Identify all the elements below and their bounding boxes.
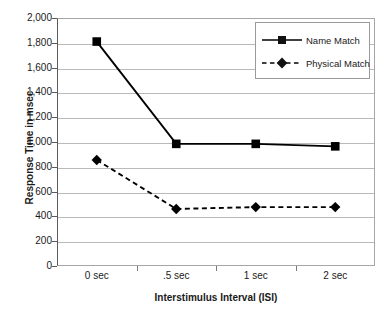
legend-sample-solid-square-icon (261, 33, 303, 47)
x-tick-label: .5 sec (136, 270, 216, 281)
y-tick-mark (52, 18, 57, 19)
y-tick-label: 1,600 (6, 63, 52, 73)
legend-entry-name-match: Name Match (256, 32, 369, 48)
y-tick-label: 1,400 (6, 87, 52, 97)
x-axis-title: Interstimulus Interval (ISI) (57, 292, 375, 303)
legend: Name Match Physical Match (255, 22, 370, 79)
gridline (58, 118, 374, 119)
x-tick-label: 0 sec (57, 270, 137, 281)
y-tick-label: 0 (6, 261, 52, 271)
y-tick-label: 800 (6, 162, 52, 172)
y-tick-label: 1,000 (6, 137, 52, 147)
y-tick-label: 1,800 (6, 38, 52, 48)
y-tick-mark (52, 241, 57, 242)
y-tick-label: 600 (6, 187, 52, 197)
y-tick-mark (52, 216, 57, 217)
y-tick-mark (52, 142, 57, 143)
gridline (58, 168, 374, 169)
y-tick-label: 2,000 (6, 13, 52, 23)
y-tick-label: 400 (6, 211, 52, 221)
gridline (58, 193, 374, 194)
y-tick-label: 200 (6, 236, 52, 246)
y-tick-mark (52, 68, 57, 69)
x-tick-mark (216, 266, 217, 271)
legend-label: Name Match (306, 35, 360, 46)
y-tick-mark (52, 266, 57, 267)
x-tick-mark (137, 266, 138, 271)
gridline (58, 143, 374, 144)
line-chart: Response Time in msec 02004006008001,000… (0, 0, 385, 312)
y-tick-mark (52, 92, 57, 93)
legend-sample-dashed-diamond-icon (261, 56, 303, 70)
x-tick-label: 1 sec (216, 270, 296, 281)
y-tick-mark (52, 117, 57, 118)
legend-label: Physical Match (306, 58, 370, 69)
gridline (58, 93, 374, 94)
y-tick-mark (52, 167, 57, 168)
x-tick-mark (296, 266, 297, 271)
y-tick-mark (52, 43, 57, 44)
gridline (58, 217, 374, 218)
gridline (58, 242, 374, 243)
legend-entry-physical-match: Physical Match (256, 55, 369, 71)
y-tick-label: 1,200 (6, 112, 52, 122)
x-tick-label: 2 sec (295, 270, 375, 281)
y-tick-mark (52, 192, 57, 193)
